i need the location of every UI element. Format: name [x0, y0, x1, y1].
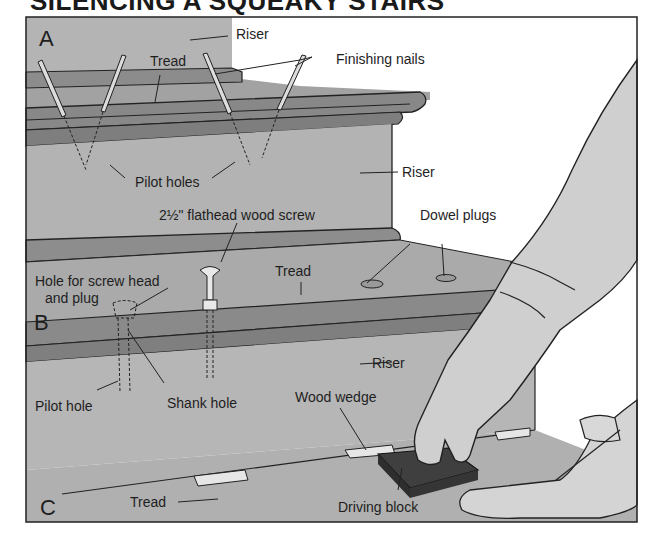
label-riser-mid: Riser: [402, 165, 435, 179]
label-riser-low: Riser: [372, 356, 405, 370]
label-riser-top: Riser: [236, 27, 269, 41]
panel-label-a: A: [39, 28, 54, 50]
label-shank-hole: Shank hole: [167, 396, 237, 410]
label-dowel-plugs: Dowel plugs: [420, 208, 496, 222]
label-and-plug: and plug: [45, 291, 99, 305]
label-tread-b: Tread: [275, 264, 311, 278]
stair-illustration: [0, 0, 647, 540]
label-tread-c: Tread: [130, 495, 166, 509]
label-pilot-holes: Pilot holes: [135, 175, 200, 189]
label-pilot-hole: Pilot hole: [35, 399, 93, 413]
label-finishing-nails: Finishing nails: [336, 52, 425, 66]
label-wood-wedge: Wood wedge: [295, 390, 376, 404]
label-tread-a: Tread: [150, 54, 186, 68]
label-hole-screw-head: Hole for screw head: [35, 274, 160, 288]
panel-label-c: C: [40, 497, 56, 519]
label-driving-block: Driving block: [338, 500, 418, 514]
label-flathead-screw: 2½" flathead wood screw: [159, 208, 315, 222]
panel-label-b: B: [34, 312, 49, 334]
